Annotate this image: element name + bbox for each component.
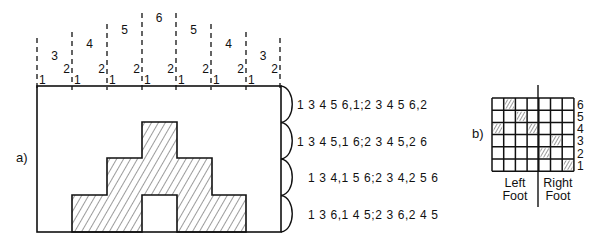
treadling-brackets <box>281 86 292 232</box>
shaft-2-label: 2 <box>237 62 244 76</box>
block-number-label: 5 <box>121 23 128 37</box>
bracket <box>281 123 292 160</box>
shaft-1-label: 1 <box>74 73 81 87</box>
shaft-1-label: 1 <box>39 73 46 87</box>
block-number-label: 4 <box>86 37 93 51</box>
tie-up-hatched-cell <box>494 124 503 133</box>
shaft-1-label: 1 <box>178 73 185 87</box>
left-foot-caption-line2: Foot <box>502 189 528 203</box>
shaft-2-label: 2 <box>167 62 174 76</box>
bracket <box>281 196 292 233</box>
shaft-2-label: 2 <box>202 62 209 76</box>
tie-up-hatched-cell <box>517 112 526 121</box>
block-number-label: 5 <box>190 23 197 37</box>
treadling-sequence: 1 3 6,1 4 5;2 3 6,2 4 5 <box>308 208 439 222</box>
motif-shape <box>72 122 246 232</box>
tie-up-hatched-cell <box>564 161 573 170</box>
panel-b: b) 654321 Left Foot Right Foot <box>472 85 584 207</box>
row-number-label: 1 <box>577 159 584 173</box>
block-number-label: 6 <box>156 11 163 25</box>
treadling-sequence: 1 3 4 5 6,1;2 3 4 5 6,2 <box>297 98 428 112</box>
shaft-1-label: 1 <box>109 73 116 87</box>
tie-up-hatched-cell <box>529 124 538 133</box>
block-number-label: 3 <box>51 49 58 63</box>
tie-up-hatched-cell <box>505 100 514 109</box>
right-foot-caption-line1: Right <box>543 176 573 190</box>
shaft-1-label: 1 <box>213 73 220 87</box>
panel-a: a) 312412512612512412312 1 3 4 5 6,1;2 3… <box>16 11 439 232</box>
block-number-label: 3 <box>260 49 267 63</box>
shaft-2-label: 2 <box>133 62 140 76</box>
harness-labels: 312412512612512412312 <box>39 11 278 87</box>
right-foot-caption-line2: Foot <box>545 189 571 203</box>
shaft-2-label: 2 <box>271 62 278 76</box>
tie-up-row-labels: 654321 <box>577 98 584 173</box>
shaft-2-label: 2 <box>63 62 70 76</box>
tie-up-hatched-cell <box>552 136 561 145</box>
bracket <box>281 86 292 123</box>
bracket <box>281 159 292 196</box>
shaft-1-label: 1 <box>248 73 255 87</box>
tie-up-hatched-cell <box>540 148 549 157</box>
treadling-sequence: 1 3 4 5,1 6;2 3 4 5,2 6 <box>297 135 428 149</box>
tie-up-grid <box>492 98 574 171</box>
weaving-diagram: a) 312412512612512412312 1 3 4 5 6,1;2 3… <box>0 0 605 247</box>
block-number-label: 4 <box>225 37 232 51</box>
treadling-sequence: 1 3 4,1 5 6;2 3 4,2 5 6 <box>308 171 439 185</box>
hatched-motif <box>72 122 246 232</box>
treadling-sequences: 1 3 4 5 6,1;2 3 4 5 6,21 3 4 5,1 6;2 3 4… <box>297 98 439 222</box>
left-foot-caption-line1: Left <box>505 176 526 190</box>
panel-b-label: b) <box>472 126 484 141</box>
shaft-1-label: 1 <box>144 73 151 87</box>
panel-a-label: a) <box>16 150 28 165</box>
shaft-2-label: 2 <box>98 62 105 76</box>
